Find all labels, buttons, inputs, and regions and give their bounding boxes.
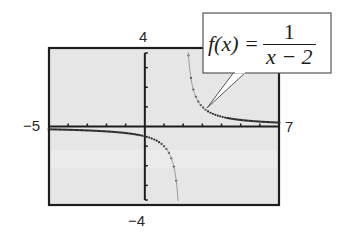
x-min-label: −5: [23, 118, 40, 133]
fraction-denominator: x − 2: [263, 44, 316, 69]
y-min-label: −4: [128, 213, 145, 228]
y-max-label: 4: [139, 29, 147, 44]
function-label: f(x) = 1 x − 2: [208, 17, 328, 71]
function-lhs: f(x) =: [208, 31, 259, 57]
scanline-highlight: [51, 150, 277, 168]
fraction: 1 x − 2: [263, 20, 316, 69]
x-max-label: 7: [285, 119, 293, 134]
fraction-numerator: 1: [281, 20, 298, 44]
